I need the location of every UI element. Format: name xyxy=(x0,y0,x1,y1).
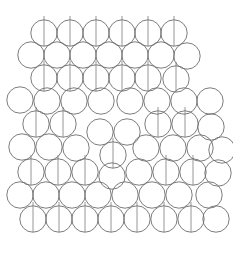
figure-root xyxy=(0,0,233,253)
disk-packing-diagram xyxy=(0,0,233,253)
